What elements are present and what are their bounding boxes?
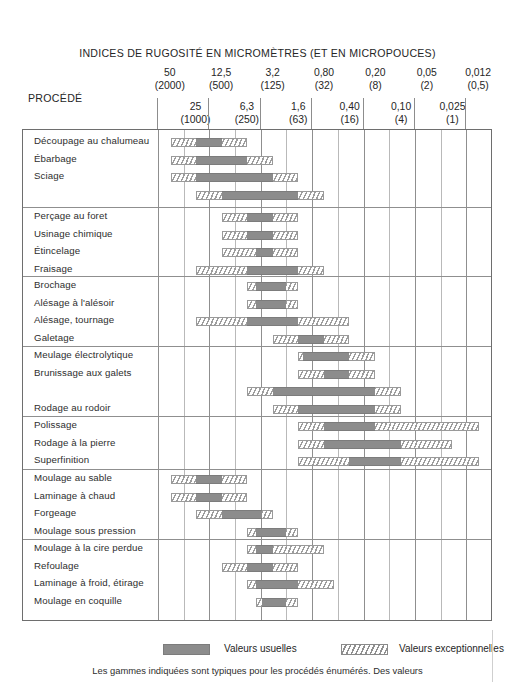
usual-range bbox=[196, 475, 222, 484]
usual-range bbox=[256, 248, 273, 257]
group-separator-6 bbox=[23, 539, 491, 540]
usual-swatch-icon bbox=[163, 644, 210, 655]
chart-frame: Découpage au chalumeauÉbarbageSciagePerç… bbox=[22, 129, 492, 621]
process-range-bar bbox=[23, 248, 491, 257]
process-range-bar bbox=[23, 563, 491, 572]
tick-microinch: (0,5) bbox=[445, 79, 511, 92]
usual-range bbox=[247, 231, 272, 240]
axis-tickmark bbox=[157, 98, 158, 129]
process-range-bar bbox=[23, 387, 491, 396]
usual-range bbox=[324, 440, 401, 449]
process-range-bar bbox=[23, 156, 491, 165]
tick-microinch: (1) bbox=[419, 113, 485, 126]
process-range-bar bbox=[23, 405, 491, 414]
tick-value: 0,012 bbox=[445, 66, 511, 79]
axis-tickmark bbox=[363, 98, 364, 129]
process-range-bar bbox=[23, 317, 491, 326]
chart-footnote: Les gammes indiquées sont typiques pour … bbox=[0, 665, 515, 676]
process-range-bar bbox=[23, 370, 491, 379]
usual-range bbox=[256, 545, 273, 554]
usual-range bbox=[247, 317, 298, 326]
usual-range bbox=[256, 528, 286, 537]
usual-range bbox=[256, 282, 286, 291]
axis-tickmark bbox=[414, 98, 415, 129]
usual-range bbox=[196, 138, 222, 147]
group-separator-4 bbox=[23, 416, 491, 417]
usual-range bbox=[298, 405, 375, 414]
process-range-bar bbox=[23, 335, 491, 344]
process-range-bar bbox=[23, 231, 491, 240]
process-range-bar bbox=[23, 580, 491, 589]
roughness-chart-page: INDICES DE RUGOSITÉ EN MICROMÈTRES (ET E… bbox=[0, 0, 515, 682]
process-range-bar bbox=[23, 422, 491, 431]
process-range-bar bbox=[23, 545, 491, 554]
process-range-bar bbox=[23, 352, 491, 361]
group-separator-5 bbox=[23, 469, 491, 470]
process-range-bar bbox=[23, 440, 491, 449]
usual-range bbox=[247, 266, 298, 275]
process-range-bar bbox=[23, 528, 491, 537]
group-separator-3 bbox=[23, 346, 491, 347]
process-range-bar bbox=[23, 282, 491, 291]
usual-range bbox=[247, 213, 272, 222]
axis-tickmark bbox=[465, 98, 466, 129]
usual-range bbox=[262, 598, 286, 607]
usual-range bbox=[303, 352, 349, 361]
chart-title: INDICES DE RUGOSITÉ EN MICROMÈTRES (ET E… bbox=[0, 47, 515, 59]
process-range-bar bbox=[23, 475, 491, 484]
process-range-bar bbox=[23, 173, 491, 182]
process-range-bar bbox=[23, 493, 491, 502]
axis-tick-lower-5: 0,025(1) bbox=[419, 100, 485, 128]
process-range-bar bbox=[23, 457, 491, 466]
process-range-bar bbox=[23, 191, 491, 200]
usual-range bbox=[298, 335, 324, 344]
axis-tickmark bbox=[311, 98, 312, 129]
usual-range bbox=[196, 493, 222, 502]
procede-axis-label: PROCÉDÉ bbox=[28, 92, 83, 104]
group-separator-2 bbox=[23, 276, 491, 277]
usual-range bbox=[196, 156, 247, 165]
axis-tick-upper-6: 0,012(0,5) bbox=[445, 66, 511, 94]
usual-range bbox=[349, 457, 400, 466]
axis-tickmark bbox=[260, 98, 261, 129]
chart-legend: Valeurs usuelles Valeurs exceptionnelles bbox=[0, 639, 515, 661]
usual-range bbox=[256, 580, 298, 589]
process-range-bar bbox=[23, 266, 491, 275]
process-range-bar bbox=[23, 138, 491, 147]
usual-range bbox=[324, 422, 375, 431]
usual-range bbox=[196, 173, 272, 182]
process-range-bar bbox=[23, 300, 491, 309]
process-range-bar bbox=[23, 510, 491, 519]
process-range-bar bbox=[23, 598, 491, 607]
process-range-bar bbox=[23, 213, 491, 222]
usual-range bbox=[324, 370, 350, 379]
group-separator-1 bbox=[23, 207, 491, 208]
tick-value: 0,025 bbox=[419, 100, 485, 113]
usual-range bbox=[222, 191, 298, 200]
usual-range bbox=[256, 300, 286, 309]
exceptional-swatch-icon bbox=[341, 644, 388, 655]
legend-usual-label: Valeurs usuelles bbox=[224, 643, 297, 654]
usual-range bbox=[273, 387, 376, 396]
legend-exceptional-label: Valeurs exceptionnelles bbox=[399, 643, 504, 654]
usual-range bbox=[222, 510, 262, 519]
usual-range bbox=[247, 563, 272, 572]
axis-tickmark bbox=[208, 98, 209, 129]
